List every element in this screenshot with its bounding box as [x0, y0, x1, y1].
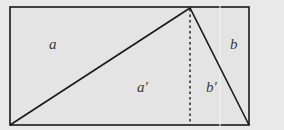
label-b-prime: b′	[206, 79, 218, 95]
label-a-prime: a′	[137, 79, 149, 95]
rectangle-triangle-diagram: a b a′ b′	[0, 0, 284, 130]
label-a: a	[49, 36, 57, 52]
label-b: b	[230, 36, 238, 52]
outer-rectangle	[10, 7, 249, 125]
